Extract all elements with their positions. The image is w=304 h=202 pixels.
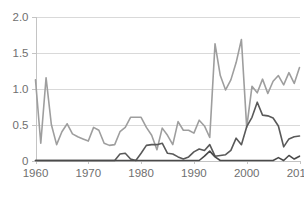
x-axis-labels: 196019701980199020002010 (23, 167, 304, 179)
y-axis-tick-label: 0.5 (13, 119, 29, 131)
y-axis-tick-label: 0 (22, 155, 28, 167)
series-line-series-light (36, 40, 300, 150)
y-axis-labels: 00.51.01.52.0 (13, 11, 29, 167)
x-axis-tick-label: 2010 (287, 167, 304, 179)
x-axis-tick-label: 1960 (23, 167, 49, 179)
x-axis-tick-label: 1990 (181, 167, 207, 179)
chart-canvas: 00.51.01.52.0 196019701980199020002010 (0, 0, 304, 202)
axis-group (32, 17, 301, 165)
x-axis-tick-label: 1980 (128, 167, 154, 179)
y-axis-tick-label: 2.0 (13, 11, 29, 23)
x-axis-tick-label: 1970 (76, 167, 102, 179)
y-axis-tick-label: 1.0 (13, 83, 29, 95)
series-group (36, 40, 300, 161)
y-axis-tick-label: 1.5 (13, 47, 29, 59)
series-line-series-medium (36, 102, 300, 160)
x-axis-tick-label: 2000 (234, 167, 260, 179)
line-chart: 00.51.01.52.0 196019701980199020002010 (0, 0, 304, 202)
